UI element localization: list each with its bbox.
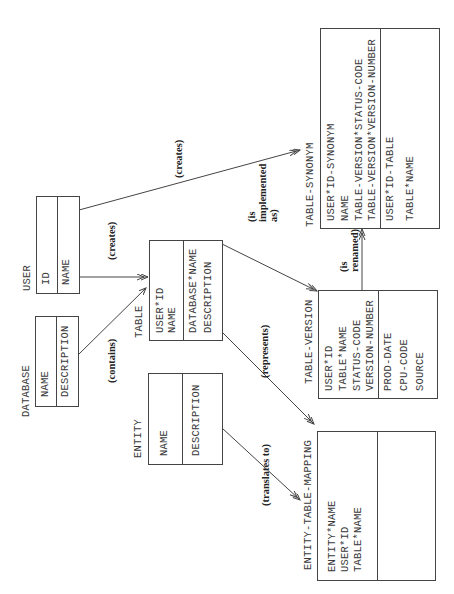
field: DESCRIPTION [60, 325, 71, 397]
entity-user: ID NAME [36, 196, 80, 294]
label-user-creates-synonym: (creates) [173, 140, 184, 178]
field: TABLE*NAME [338, 326, 349, 391]
field: TABLE*NAME [353, 507, 364, 572]
field: SOURCE [415, 352, 426, 391]
field: TABLE-VERSION*VERSION-NUMBER [367, 39, 378, 221]
entity-title-table-version: TABLE-VERSION [304, 299, 315, 384]
er-diagram: (creates) (creates) (contains) (is imple… [0, 0, 454, 594]
field: USER*ID [324, 345, 335, 391]
field: NAME [340, 195, 351, 221]
field: STATUS-CODE [352, 319, 363, 391]
field: NAME [167, 307, 178, 333]
field: DATABASE*NAME [188, 248, 199, 333]
rel-table-implemented-version [222, 244, 317, 291]
entity-title-table: TABLE [134, 305, 145, 338]
label-line: (is [246, 164, 257, 222]
field: ENTITY*NAME [327, 500, 338, 572]
entity-title-entity-table-mapping: ENTITY-TABLE-MAPPING [303, 440, 314, 570]
entity-entity: NAME DESCRIPTION [148, 373, 223, 465]
field: USER*ID-TABLE [385, 136, 396, 221]
field: DESCRIPTION [203, 261, 214, 333]
entity-title-user: USER [22, 265, 33, 291]
field: NAME [40, 371, 51, 397]
label-line: as) [268, 164, 279, 222]
field: DESCRIPTION [191, 384, 202, 456]
field: USER*ID [340, 526, 351, 572]
entity-table-synonym: USER*ID-SYNONYM NAME TABLE-VERSION*STATU… [320, 28, 440, 229]
field: TABLE*NAME [405, 156, 416, 221]
label-table-implemented-version: (is implemented as) [246, 164, 279, 222]
field: PROD-DATE [383, 332, 394, 391]
label-entity-translates-mapping: (translates to) [260, 444, 271, 506]
label-line: implemented [257, 164, 268, 222]
field: CPU-CODE [399, 339, 410, 391]
field: USER*ID-SYNONYM [326, 123, 337, 221]
label-line: (is [338, 229, 349, 272]
entity-title-table-synonym: TABLE-SYNONYM [305, 142, 316, 227]
label-user-creates-table: (creates) [106, 222, 117, 260]
label-table-represents-mapping: (represents) [259, 325, 270, 378]
entity-table: USER*ID NAME DATABASE*NAME DESCRIPTION [149, 240, 223, 341]
field: USER*ID [155, 287, 166, 333]
field: VERSION-NUMBER [365, 300, 376, 391]
entity-title-entity: ENTITY [133, 419, 144, 458]
entity-title-database: DATABASE [21, 365, 32, 417]
label-line: renamed) [349, 229, 360, 272]
field: TABLE-VERSION*STATUS-CODE [354, 58, 365, 221]
entity-table-version: USER*ID TABLE*NAME STATUS-CODE VERSION-N… [318, 290, 438, 399]
entity-database: NAME DESCRIPTION [35, 316, 79, 407]
label-database-contains-table: (contains) [106, 339, 117, 383]
field: NAME [159, 430, 170, 456]
label-version-renamed-synonym: (is renamed) [338, 229, 360, 272]
entity-entity-table-mapping: ENTITY*NAME USER*ID TABLE*NAME [317, 431, 436, 581]
field: ID [41, 272, 52, 285]
field: NAME [61, 259, 72, 285]
